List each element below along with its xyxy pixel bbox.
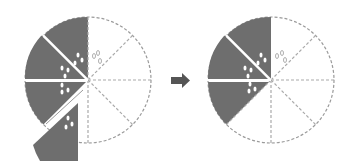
left-pie [24,17,151,161]
arrow-right-icon [171,73,190,88]
right-pie [207,17,334,143]
pie-fraction-diagram [0,0,361,161]
